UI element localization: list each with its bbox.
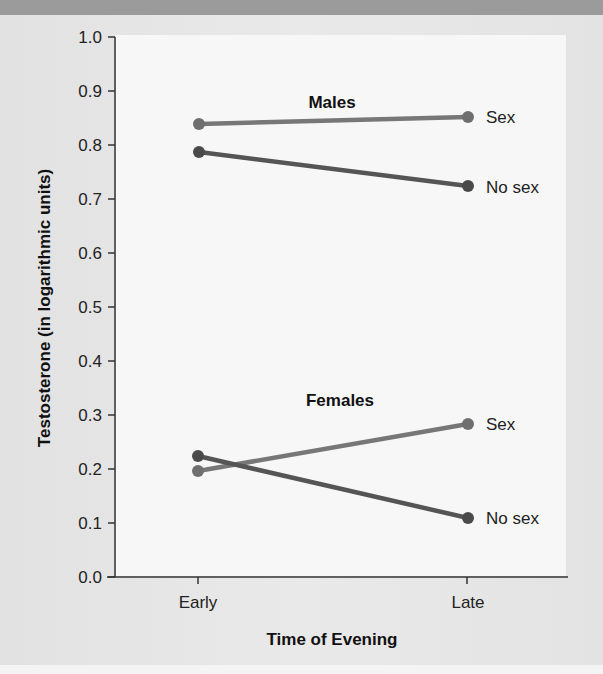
x-axis-title: Time of Evening: [267, 630, 398, 649]
y-tick-label: 0.7: [78, 190, 102, 209]
y-tick-label: 0.5: [78, 298, 102, 317]
y-tick-label: 0.4: [78, 352, 102, 371]
y-tick-label: 0.3: [78, 406, 102, 425]
y-tick-label: 0.0: [78, 568, 102, 587]
y-tick-labels: 0.0 0.1 0.2 0.3 0.4 0.5 0.6 0.7 0.8 0.9 …: [78, 28, 102, 587]
y-ticks: [108, 91, 115, 577]
y-tick-label: 1.0: [78, 28, 102, 47]
x-tick-label-early: Early: [179, 593, 218, 612]
label-females-no-sex: No sex: [486, 509, 539, 528]
group-title-males: Males: [308, 93, 355, 112]
label-males-sex: Sex: [486, 108, 516, 127]
y-tick-label: 0.8: [78, 136, 102, 155]
y-tick-label: 0.1: [78, 514, 102, 533]
x-tick-label-late: Late: [451, 593, 484, 612]
label-females-sex: Sex: [486, 415, 516, 434]
y-tick-label: 0.9: [78, 82, 102, 101]
y-axis-title: Testosterone (in logarithmic units): [35, 169, 54, 447]
y-tick-label: 0.6: [78, 244, 102, 263]
line-chart: 0.0 0.1 0.2 0.3 0.4 0.5 0.6 0.7 0.8 0.9 …: [0, 0, 603, 674]
group-title-females: Females: [306, 391, 374, 410]
y-tick-label: 0.2: [78, 460, 102, 479]
label-males-no-sex: No sex: [486, 178, 539, 197]
